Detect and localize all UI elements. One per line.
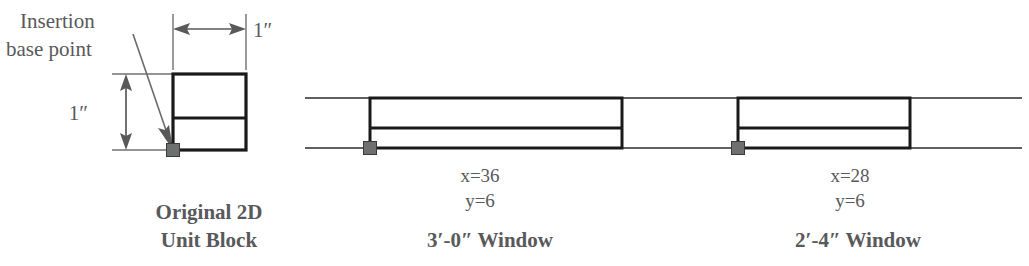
insertion-label-line1: Insertion [20,9,95,33]
unit-block-caption-line1: Original 2D [156,200,263,224]
window-3-0-scale-y: y=6 [465,190,495,211]
width-dimension-label: 1″ [253,18,272,42]
window-2-4-outline [738,98,910,148]
window-2-4-caption: 2′-4″ Window [795,228,922,252]
unit-block-outline [173,74,246,150]
window-2-4-scale-y: y=6 [835,190,865,211]
window-2-4-scale-x: x=28 [830,165,869,186]
figure-canvas: 1″ 1″ Insertion base point Original 2D U… [0,0,1029,266]
unit-block-caption-line2: Unit Block [161,228,258,252]
window-3-0-scale-x: x=36 [460,165,499,186]
window-3-0-base-point-marker [364,142,377,155]
window-2-4-base-point-marker [732,142,745,155]
leader-line [133,34,168,136]
window-3-0-caption: 3′-0″ Window [427,228,554,252]
height-dimension-label: 1″ [69,101,88,125]
insertion-label-line2: base point [6,37,92,61]
window-3-0-outline [370,98,622,148]
insertion-base-point-marker [167,144,180,157]
technical-drawing: 1″ 1″ Insertion base point Original 2D U… [0,0,1029,266]
